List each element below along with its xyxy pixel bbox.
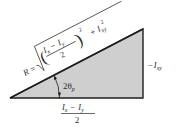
svg-text:2: 2 — [78, 26, 83, 33]
triangle-diagram: 2θp −Ixy Ix−Iy 2 R = ( Ix−Iy 2 ) 2 +Ixy … — [0, 0, 180, 133]
svg-text:Ix−Iy: Ix−Iy — [61, 102, 84, 113]
svg-text:2: 2 — [75, 115, 79, 125]
svg-text:2: 2 — [99, 18, 104, 25]
svg-text:R =: R = — [20, 63, 37, 78]
vertical-side-label: −Ixy — [148, 60, 162, 71]
svg-text:2: 2 — [58, 49, 66, 60]
svg-text:+Ixy: +Ixy — [88, 21, 108, 38]
horizontal-side-label: Ix−Iy 2 — [61, 102, 95, 125]
close-paren: ) — [72, 30, 86, 49]
